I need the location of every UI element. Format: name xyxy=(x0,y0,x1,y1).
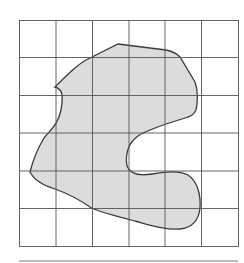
grid-lines xyxy=(19,20,239,247)
grid-figure xyxy=(0,0,244,263)
irregular-shape xyxy=(30,44,200,229)
